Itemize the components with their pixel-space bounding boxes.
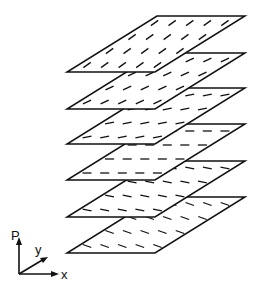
p-axis-label: P	[11, 228, 20, 243]
x-axis-arrowhead	[51, 271, 59, 277]
layer-stack	[67, 16, 245, 253]
layered-structure-diagram: P y x	[0, 0, 257, 295]
y-axis	[19, 259, 44, 274]
y-axis-arrowhead	[40, 257, 48, 263]
x-axis-label: x	[61, 267, 68, 282]
y-axis-label: y	[35, 242, 42, 257]
